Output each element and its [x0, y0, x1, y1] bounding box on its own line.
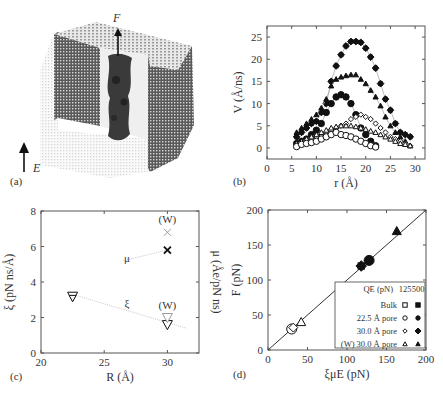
- x-tick-label: 100: [339, 353, 356, 365]
- data-point: [372, 144, 378, 150]
- data-point: [416, 316, 420, 320]
- data-point: [364, 255, 374, 265]
- data-point: [373, 130, 378, 135]
- data-point: [369, 55, 373, 59]
- data-point: [329, 125, 334, 130]
- data-point: [297, 318, 306, 326]
- data-point: [392, 227, 401, 235]
- y-axis-right-label: μ (Åe/pN ns): [210, 250, 224, 313]
- legend-row-label: (W) 30.0 Å pore: [341, 339, 397, 349]
- data-point: [300, 131, 304, 135]
- annotation: μ: [124, 252, 130, 264]
- legend-row-label: Bulk: [380, 300, 397, 310]
- data-point: [394, 122, 398, 126]
- y-axis-label: V (Å/ns): [231, 71, 245, 113]
- x-tick-label: 25: [99, 356, 111, 368]
- data-point: [383, 134, 388, 139]
- force-label: F: [112, 11, 121, 25]
- data-point: [416, 303, 420, 307]
- data-point: [305, 126, 309, 130]
- panel-d-force-comparison: 050100150200050100150200ξμE (pN)F (pN)QE…: [229, 204, 435, 381]
- data-point: [359, 41, 363, 45]
- legend-col-125: 125: [399, 284, 412, 294]
- y-tick-label: 5: [257, 120, 263, 132]
- legend-row-label: 30.0 Å pore: [357, 326, 398, 336]
- x-axis-label: R (Å): [106, 370, 134, 384]
- data-point: [378, 132, 383, 137]
- data-point: [344, 44, 348, 48]
- y-tick-label: 6: [31, 241, 37, 253]
- data-point: [378, 103, 383, 108]
- data-point: [319, 105, 324, 110]
- data-point: [315, 119, 319, 123]
- x-axis-label: r (Å): [334, 176, 358, 190]
- legend: QE (pN)125500Bulk22.5 Å pore30.0 Å pore(…: [335, 282, 425, 349]
- data-point: [384, 97, 388, 101]
- data-point: [408, 135, 412, 139]
- data-point: [358, 263, 364, 269]
- y-tick-label: 4: [31, 276, 37, 288]
- y-tick-label: 100: [247, 274, 264, 286]
- data-point: [364, 46, 368, 50]
- y-tick-label: 20: [251, 53, 263, 65]
- x-tick-label: 30: [162, 356, 174, 368]
- data-point: [353, 72, 358, 77]
- data-point: [295, 135, 299, 139]
- data-point: [318, 120, 324, 126]
- x-tick-label: 25: [385, 162, 397, 174]
- data-point: [416, 329, 419, 332]
- panel-a-simulation-render: F E: [19, 11, 194, 178]
- data-point: [403, 316, 407, 320]
- data-point: [348, 72, 353, 77]
- y-tick-label: 0: [31, 347, 37, 359]
- data-point: [374, 66, 378, 70]
- data-point: [338, 123, 343, 128]
- data-point: [310, 122, 314, 126]
- y-tick-label: 200: [247, 204, 264, 216]
- x-tick-label: 200: [418, 353, 435, 365]
- panel-c-friction-mobility: 20253002468R (Å)ξ (pN ns/Å)μ (Åe/pN ns)(…: [2, 205, 224, 384]
- legend-header: QE (pN): [363, 284, 393, 294]
- annotation: ξ: [124, 297, 129, 310]
- field-label: E: [32, 161, 41, 175]
- data-point: [363, 114, 368, 119]
- y-tick-label: 0: [257, 142, 263, 154]
- y-tick-label: 0: [258, 344, 264, 356]
- x-tick-label: 150: [378, 353, 395, 365]
- x-tick-label: 10: [311, 162, 323, 174]
- legend-row-label: 22.5 Å pore: [357, 313, 398, 323]
- plot-frame: [41, 211, 199, 353]
- panel-b-velocity-profile: 0510152025300510152025r (Å)V (Å/ns): [231, 26, 425, 190]
- data-point: [389, 108, 393, 112]
- legend-col-500: 500: [412, 284, 425, 294]
- data-point: [403, 133, 407, 137]
- data-point: [379, 82, 383, 86]
- y-tick-label: 8: [31, 205, 37, 217]
- data-point: [323, 109, 329, 115]
- data-point: [383, 114, 388, 119]
- x-axis-label: ξμE (pN): [325, 367, 370, 381]
- annotation: (W): [159, 213, 177, 226]
- panel-label-d: (d): [233, 368, 246, 381]
- y-tick-label: 2: [31, 312, 37, 324]
- data-point: [403, 303, 407, 307]
- y-tick-label: 50: [252, 309, 264, 321]
- data-point: [339, 53, 343, 57]
- panel-label-a: (a): [10, 175, 23, 188]
- data-point: [334, 64, 338, 68]
- x-tick-label: 0: [264, 162, 270, 174]
- x-tick-label: 5: [289, 162, 295, 174]
- y-axis-label: F (pN): [229, 264, 243, 296]
- x-tick-label: 0: [265, 353, 271, 365]
- panel-label-b: (b): [233, 175, 246, 188]
- y-tick-label: 150: [247, 239, 264, 251]
- y-axis-label: ξ (pN ns/Å): [2, 254, 16, 311]
- data-point: [338, 74, 343, 79]
- data-point: [348, 100, 354, 106]
- x-tick-label: 20: [360, 162, 372, 174]
- data-point: [324, 128, 329, 133]
- x-tick-label: 30: [410, 162, 422, 174]
- y-tick-label: 10: [251, 98, 263, 110]
- data-point: [353, 124, 358, 129]
- data-point: [334, 77, 339, 82]
